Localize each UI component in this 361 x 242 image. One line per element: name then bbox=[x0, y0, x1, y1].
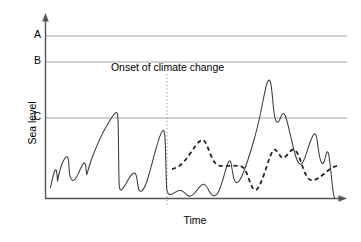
series-post-change-dashed bbox=[172, 140, 338, 190]
y-tick-label-a: A bbox=[28, 28, 41, 40]
x-axis-title: Time bbox=[155, 214, 235, 226]
y-tick-label-b: B bbox=[28, 54, 41, 66]
x-axis-arrowhead bbox=[339, 195, 348, 201]
x-axis bbox=[45, 195, 347, 201]
y-axis bbox=[42, 13, 49, 199]
series-sea-level-solid bbox=[50, 80, 335, 198]
y-axis-arrowhead bbox=[42, 13, 49, 22]
gridlines-group bbox=[45, 36, 347, 118]
y-axis-title: Sea level bbox=[26, 83, 38, 163]
chart-canvas bbox=[0, 0, 361, 242]
chart-figure: A B C Sea level Time Onset of climate ch… bbox=[0, 0, 361, 242]
onset-of-climate-change-label: Onset of climate change bbox=[60, 61, 275, 73]
